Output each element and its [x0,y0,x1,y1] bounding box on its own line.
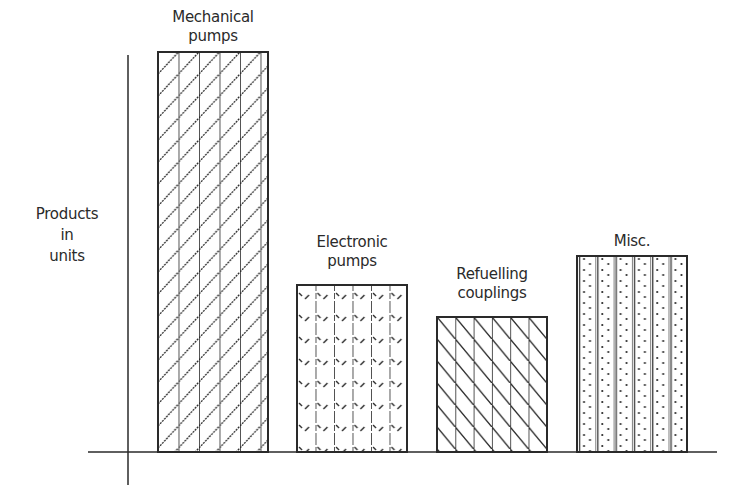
bar-misc [577,256,687,452]
category-label-mechanical-pumps: Mechanical pumps [143,8,283,46]
bar-electronic-pumps [297,285,407,452]
category-label-misc: Misc. [562,232,702,251]
y-axis-label: Products in units [22,204,112,267]
category-label-electronic-pumps: Electronic pumps [282,233,422,271]
category-label-refuelling-couplings: Refuelling couplings [422,265,562,303]
bar-mechanical-pumps [158,52,268,452]
bar-refuelling-couplings [437,317,547,452]
